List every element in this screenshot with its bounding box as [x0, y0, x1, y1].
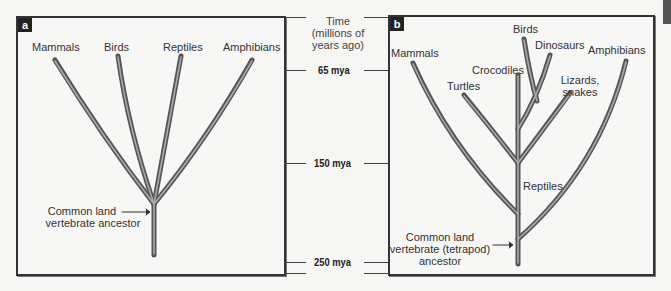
- panel-b: b: [388, 15, 655, 276]
- label-amphibians-b: Amphibians: [588, 44, 645, 56]
- label-reptiles-a: Reptiles: [163, 41, 203, 53]
- tick-label-250: 250 mya: [314, 256, 351, 268]
- time-axis-header: Time (millions of years ago): [296, 15, 380, 51]
- tick-label-150: 150 mya: [314, 157, 351, 169]
- label-birds-a: Birds: [104, 41, 129, 53]
- phylogenetic-tree-a: [18, 18, 284, 274]
- label-reptiles-b: Reptiles: [523, 180, 563, 192]
- label-birds-b: Birds: [513, 23, 538, 35]
- tick-bottom-right: [364, 273, 388, 274]
- label-dinosaurs-b: Dinosaurs: [535, 39, 585, 51]
- ancestor-label-b: Common land vertebrate (tetrapod) ancest…: [382, 231, 498, 267]
- label-mammals-b: Mammals: [391, 47, 439, 59]
- panel-a: a Mammals Birds Reptiles Amphibians C: [16, 16, 286, 276]
- label-lizards-snakes-b: Lizards, snakes: [550, 74, 610, 98]
- tick-label-65: 65 mya: [318, 64, 350, 76]
- tick-250-left: [284, 262, 306, 263]
- label-turtles-b: Turtles: [447, 80, 480, 92]
- tick-65-right: [364, 70, 388, 71]
- tick-150-left: [284, 163, 306, 164]
- ancestor-label-a: Common land vertebrate ancestor: [38, 205, 148, 229]
- tick-bottom-left: [284, 273, 306, 274]
- tick-150-right: [364, 163, 388, 164]
- label-amphibians-a: Amphibians: [223, 41, 280, 53]
- label-mammals-a: Mammals: [32, 41, 80, 53]
- page-edge-tab: [663, 0, 671, 24]
- tick-65-left: [284, 70, 306, 71]
- label-crocodiles-b: Crocodiles: [472, 64, 524, 76]
